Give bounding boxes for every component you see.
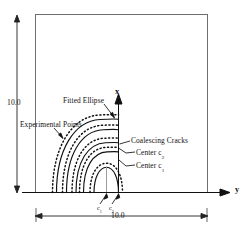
- experimental-points-label: Experimental Points: [20, 121, 82, 128]
- center-c2-label: Center c2: [136, 149, 164, 159]
- origin-c1-subscript: 1: [100, 209, 102, 214]
- center-c2-subscript: 2: [162, 155, 165, 160]
- y-axis-label: y: [235, 186, 239, 194]
- dimension-left-label: 10.0: [7, 99, 21, 107]
- origin-c2-subscript: 2: [112, 209, 114, 214]
- fitted-ellipse-2: [67, 130, 119, 193]
- figure-canvas: [0, 0, 251, 238]
- fitted-ellipse-label: Fitted Ellipse: [63, 97, 104, 104]
- coalescing-cracks-label: Coalescing Cracks: [131, 137, 188, 144]
- center-c1-subscript: 1: [162, 168, 165, 173]
- origin-c1-label: c1: [97, 205, 102, 213]
- center-c1-label: Center c1: [136, 162, 164, 172]
- x-axis-label: x: [115, 88, 119, 96]
- crack-coalescence-figure: 10.0 10.0 Fitted Ellipse Experimental Po…: [0, 0, 251, 238]
- center-c2-text: Center c: [136, 148, 162, 157]
- center-c1-text: Center c: [136, 161, 162, 170]
- origin-c2-label: c2: [109, 205, 114, 213]
- fitted-ellipse-4: [84, 152, 119, 193]
